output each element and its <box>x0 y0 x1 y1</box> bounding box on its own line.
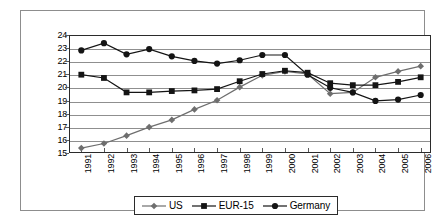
square-marker-icon <box>395 79 401 85</box>
diamond-marker-icon <box>191 106 198 113</box>
circle-marker-icon <box>304 72 310 78</box>
y-axis-tick-label: 18 <box>45 109 67 118</box>
series-us <box>78 63 424 152</box>
diamond-marker-icon <box>142 200 166 212</box>
plot-area <box>69 35 431 153</box>
x-axis: 1991199219931994199519961997199819992000… <box>69 154 431 196</box>
circle-marker-icon <box>372 98 378 104</box>
circle-marker-icon <box>101 40 107 46</box>
legend-label: Germany <box>290 201 330 211</box>
y-axis-tick <box>65 35 69 36</box>
x-axis-tick-label: 2003 <box>356 154 365 173</box>
chart-legend: USEUR-15Germany <box>134 196 338 215</box>
circle-marker-icon <box>169 53 175 59</box>
x-axis-tick-label: 1996 <box>197 154 206 173</box>
circle-marker-icon <box>237 57 243 63</box>
y-axis-tick-label: 21 <box>45 70 67 79</box>
y-axis-tick <box>65 140 69 141</box>
x-axis-tick-label: 2001 <box>311 154 320 173</box>
square-marker-icon <box>192 88 198 94</box>
figure-frame: 24232221201918171615 1991199219931994199… <box>20 10 425 211</box>
square-marker-icon <box>259 71 265 77</box>
circle-marker-icon <box>214 60 220 66</box>
diamond-marker-icon <box>417 63 424 70</box>
diamond-marker-icon <box>146 124 153 131</box>
legend-label: EUR-15 <box>219 201 254 211</box>
x-axis-tick-label: 1993 <box>130 154 139 173</box>
circle-marker-icon <box>123 51 129 57</box>
y-axis-tick-label: 15 <box>45 149 67 158</box>
circle-marker-icon <box>327 85 333 91</box>
diamond-marker-icon <box>101 140 108 147</box>
chart-figure: 24232221201918171615 1991199219931994199… <box>0 0 446 224</box>
x-axis-tick-label: 1991 <box>84 154 93 173</box>
y-axis-tick-label: 22 <box>45 57 67 66</box>
legend-item[interactable]: US <box>142 200 183 212</box>
x-axis-tick-label: 2004 <box>378 154 387 173</box>
legend-item[interactable]: Germany <box>263 200 330 212</box>
y-axis-tick <box>65 101 69 102</box>
x-axis-tick-label: 1997 <box>220 154 229 173</box>
y-axis-tick <box>65 87 69 88</box>
y-axis-tick-label: 23 <box>45 44 67 53</box>
diamond-marker-icon <box>151 202 158 209</box>
x-axis-tick-label: 2002 <box>333 154 342 173</box>
circle-marker-icon <box>78 47 84 53</box>
x-axis-tick-label: 1992 <box>107 154 116 173</box>
square-marker-icon <box>192 200 216 212</box>
square-marker-icon <box>169 88 175 94</box>
square-marker-icon <box>201 203 207 209</box>
circle-marker-icon <box>263 200 287 212</box>
y-axis-tick <box>65 61 69 62</box>
circle-marker-icon <box>282 52 288 58</box>
y-axis-tick-label: 16 <box>45 135 67 144</box>
series-germany <box>78 40 424 104</box>
circle-marker-icon <box>191 58 197 64</box>
diamond-marker-icon <box>169 117 176 124</box>
diamond-marker-icon <box>372 74 379 81</box>
square-marker-icon <box>373 82 379 88</box>
square-marker-icon <box>237 78 243 84</box>
x-axis-tick-label: 1999 <box>265 154 274 173</box>
diamond-marker-icon <box>214 97 221 104</box>
diamond-marker-icon <box>395 68 402 75</box>
diamond-marker-icon <box>236 84 243 91</box>
x-axis-tick-label: 1994 <box>152 154 161 173</box>
square-marker-icon <box>418 74 424 80</box>
y-axis-tick <box>65 48 69 49</box>
square-marker-icon <box>124 89 130 95</box>
x-axis-tick-label: 2000 <box>288 154 297 173</box>
x-axis-tick-label: 1998 <box>243 154 252 173</box>
square-marker-icon <box>214 86 220 92</box>
square-marker-icon <box>350 82 356 88</box>
x-axis-tick-label: 2005 <box>401 154 410 173</box>
x-axis-tick-label: 1995 <box>175 154 184 173</box>
circle-marker-icon <box>146 46 152 52</box>
legend-label: US <box>169 201 183 211</box>
square-marker-icon <box>282 68 288 74</box>
y-axis-tick <box>65 74 69 75</box>
series-line <box>81 66 420 148</box>
square-marker-icon <box>146 89 152 95</box>
y-axis-tick-label: 20 <box>45 83 67 92</box>
y-axis-tick-label: 24 <box>45 31 67 40</box>
y-axis: 24232221201918171615 <box>45 35 67 153</box>
square-marker-icon <box>101 75 107 81</box>
y-axis-tick <box>65 153 69 154</box>
circle-marker-icon <box>259 52 265 58</box>
y-axis-tick <box>65 127 69 128</box>
x-axis-tick-label: 2006 <box>424 154 433 173</box>
circle-marker-icon <box>272 202 278 208</box>
diamond-marker-icon <box>78 145 85 152</box>
square-marker-icon <box>78 72 84 78</box>
y-axis-tick-label: 17 <box>45 122 67 131</box>
circle-marker-icon <box>395 96 401 102</box>
circle-marker-icon <box>350 89 356 95</box>
y-axis-tick-label: 19 <box>45 96 67 105</box>
legend-item[interactable]: EUR-15 <box>192 200 254 212</box>
circle-marker-icon <box>418 92 424 98</box>
diamond-marker-icon <box>123 132 130 139</box>
y-axis-tick <box>65 114 69 115</box>
series-layer <box>70 36 432 154</box>
